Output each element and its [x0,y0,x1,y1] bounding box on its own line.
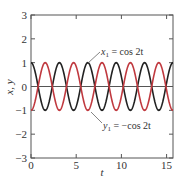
y-tick-label: −2 [15,128,27,140]
y-tick-label: 2 [22,33,28,45]
chart: 051015−3−2−10123 x1 = cos 2ty1 = −cos 2t… [0,0,186,184]
x-tick-label: 10 [116,159,128,171]
y-tick-label: 3 [22,9,28,21]
annotations: x1 = cos 2ty1 = −cos 2t [88,46,151,133]
x-axis-label: t [100,166,104,178]
annotation-label: x1 = cos 2t [100,46,143,59]
y-tick-label: 1 [22,57,28,69]
y-tick-label: 0 [22,81,28,93]
x-tick-label: 5 [73,159,79,171]
annotation-leader [91,112,102,123]
y-tick-label: −3 [15,152,27,164]
x-tick-label: 0 [28,159,34,171]
y-tick-label: −1 [15,104,27,116]
annotation-leader [88,52,100,63]
y-axis-label: x, y [3,79,15,95]
annotation-label: y1 = −cos 2t [102,120,151,133]
x-tick-label: 15 [161,159,173,171]
